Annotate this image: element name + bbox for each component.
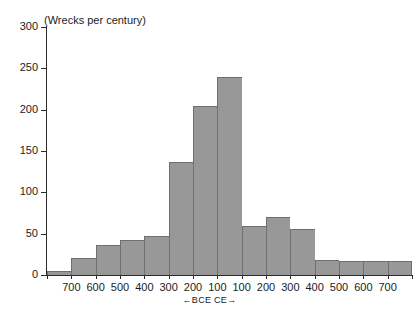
y-tick-label-100: 100	[5, 186, 38, 197]
x-tick-14	[388, 275, 389, 279]
bar-700-ce	[388, 261, 412, 275]
bar-400-bce	[120, 240, 144, 275]
x-tick-1	[71, 275, 72, 279]
x-tick-12	[339, 275, 340, 279]
x-tick-0	[47, 275, 48, 279]
bar-700-bce	[47, 271, 71, 275]
x-tick-6	[193, 275, 194, 279]
x-tick-9	[266, 275, 267, 279]
bar-100-bce	[193, 106, 217, 275]
y-tick-200	[41, 110, 46, 111]
bar-400-ce	[315, 260, 339, 275]
era-annotation: ←BCE CE→	[0, 295, 419, 305]
y-tick-label-200: 200	[5, 104, 38, 115]
y-axis-labels: 050100150200250300	[0, 0, 38, 317]
bar-600-ce	[363, 261, 387, 275]
x-tick-15	[412, 275, 413, 279]
chart-title: (Wrecks per century)	[44, 14, 146, 26]
y-tick-300	[41, 27, 46, 28]
x-tick-5	[169, 275, 170, 279]
x-tick-3	[120, 275, 121, 279]
bar-500-ce	[339, 261, 363, 275]
bar-600-bce	[71, 258, 95, 275]
x-tick-4	[144, 275, 145, 279]
x-tick-13	[363, 275, 364, 279]
y-tick-50	[41, 234, 46, 235]
x-tick-2	[96, 275, 97, 279]
x-tick-7	[217, 275, 218, 279]
y-tick-100	[41, 192, 46, 193]
plot-area	[47, 27, 412, 275]
chart-canvas: (Wrecks per century) 050100150200250300 …	[0, 0, 419, 317]
y-tick-label-250: 250	[5, 62, 38, 73]
x-axis-line	[46, 275, 413, 276]
bar-200-bce	[169, 162, 193, 275]
x-tick-10	[290, 275, 291, 279]
y-tick-label-150: 150	[5, 145, 38, 156]
bar-300-ce	[290, 229, 314, 275]
bar-300-bce	[144, 236, 168, 275]
x-tick-11	[315, 275, 316, 279]
y-tick-label-300: 300	[5, 21, 38, 32]
y-tick-250	[41, 68, 46, 69]
y-tick-label-50: 50	[5, 228, 38, 239]
bar-0	[217, 77, 241, 275]
x-tick-8	[242, 275, 243, 279]
bar-100-ce	[242, 226, 266, 275]
y-tick-label-0: 0	[5, 269, 38, 280]
y-tick-150	[41, 151, 46, 152]
bar-200-ce	[266, 217, 290, 275]
y-tick-0	[41, 275, 46, 276]
bar-500-bce	[96, 245, 120, 275]
x-tick-label-13: 700	[368, 281, 408, 294]
